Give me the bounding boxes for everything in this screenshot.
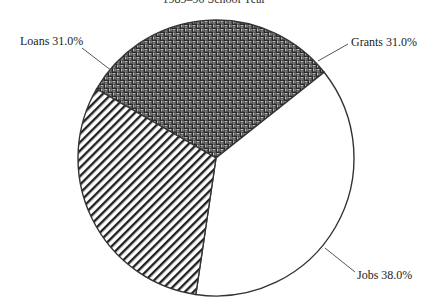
pie-chart: 1989–90 School Year Loans 31.0% Grants 3… (0, 0, 429, 306)
chart-title: 1989–90 School Year (162, 0, 265, 6)
pie-chart-svg: 1989–90 School Year Loans 31.0% Grants 3… (0, 0, 429, 306)
grants-label: Grants 31.0% (351, 35, 417, 49)
grants-leader-line (318, 44, 348, 61)
loans-label: Loans 31.0% (20, 34, 83, 48)
jobs-label: Jobs 38.0% (357, 268, 412, 282)
pie-slices (78, 20, 354, 296)
loans-leader-line (82, 48, 112, 71)
jobs-leader-line (325, 248, 355, 272)
